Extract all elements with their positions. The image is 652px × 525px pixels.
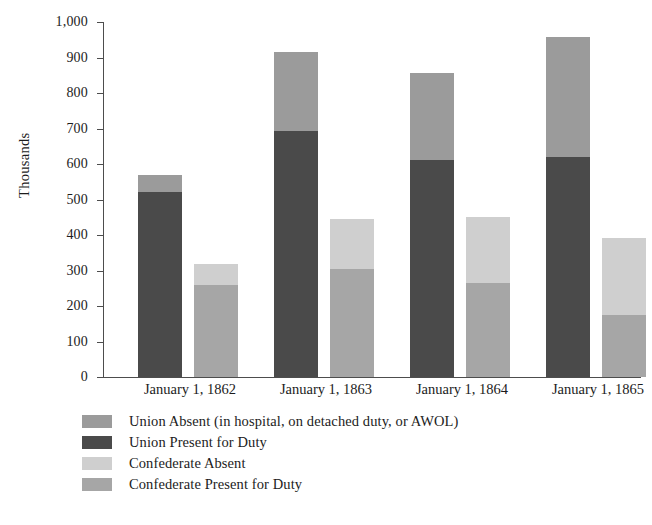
y-axis-tick-label: 1,000 bbox=[56, 14, 89, 30]
bar-segment-union_absent bbox=[546, 37, 590, 157]
bar-segment-confederate_present bbox=[194, 285, 238, 377]
chart-legend: Union Absent (in hospital, on detached d… bbox=[82, 411, 458, 495]
legend-label: Union Absent (in hospital, on detached d… bbox=[129, 413, 458, 430]
y-axis-tick-label: 500 bbox=[66, 192, 88, 208]
y-axis-tick-label: 200 bbox=[66, 298, 88, 314]
y-axis-tick-label: 900 bbox=[66, 50, 88, 66]
bar-segment-union_present bbox=[274, 131, 318, 377]
bar-segment-confederate_absent bbox=[602, 238, 646, 315]
bar-confederate bbox=[466, 217, 510, 377]
bar-segment-confederate_present bbox=[330, 269, 374, 377]
legend-swatch bbox=[82, 478, 112, 491]
bar-confederate bbox=[330, 219, 374, 377]
y-axis-tick: 400 bbox=[97, 235, 103, 236]
legend-item: Union Absent (in hospital, on detached d… bbox=[82, 411, 458, 431]
y-axis-tick: 100 bbox=[97, 342, 103, 343]
y-axis-tick-label: 100 bbox=[66, 334, 88, 350]
y-axis-title: Thousands bbox=[16, 132, 33, 198]
chart-figure: Thousands 1,0009008007006005004003002001… bbox=[0, 0, 652, 525]
y-axis-tick: 700 bbox=[97, 129, 103, 130]
legend-swatch bbox=[82, 457, 112, 470]
bar-segment-union_present bbox=[138, 192, 182, 377]
y-axis-tick-label: 400 bbox=[66, 227, 88, 243]
y-axis-tick-label: 0 bbox=[81, 369, 88, 385]
y-axis-tick-label: 300 bbox=[66, 263, 88, 279]
legend-label: Confederate Present for Duty bbox=[129, 476, 302, 493]
x-axis-line bbox=[103, 377, 641, 378]
bar-segment-confederate_absent bbox=[330, 219, 374, 269]
bar-segment-union_absent bbox=[138, 175, 182, 192]
bar-segment-union_absent bbox=[274, 52, 318, 131]
y-axis-tick-label: 600 bbox=[66, 156, 88, 172]
bar-union bbox=[546, 37, 590, 377]
legend-label: Confederate Absent bbox=[129, 455, 246, 472]
bar-segment-union_present bbox=[410, 160, 454, 377]
bar-segment-confederate_absent bbox=[466, 217, 510, 283]
legend-swatch bbox=[82, 436, 112, 449]
bar-union bbox=[274, 52, 318, 377]
bar-segment-confederate_present bbox=[602, 315, 646, 377]
legend-item: Confederate Absent bbox=[82, 453, 458, 473]
y-axis-tick: 600 bbox=[97, 164, 103, 165]
y-axis-tick: 800 bbox=[97, 93, 103, 94]
y-axis-tick: 1,000 bbox=[97, 22, 103, 23]
y-axis-tick: 200 bbox=[97, 306, 103, 307]
bar-segment-confederate_present bbox=[466, 283, 510, 377]
plot-area: 1,0009008007006005004003002001000 Januar… bbox=[103, 22, 641, 378]
y-axis-line bbox=[103, 22, 104, 378]
bar-confederate bbox=[602, 238, 646, 377]
bar-segment-union_absent bbox=[410, 73, 454, 160]
bar-confederate bbox=[194, 264, 238, 377]
legend-item: Union Present for Duty bbox=[82, 432, 458, 452]
x-axis-group-label: January 1, 1865 bbox=[518, 381, 652, 398]
y-axis-tick: 0 bbox=[97, 377, 103, 378]
legend-label: Union Present for Duty bbox=[129, 434, 267, 451]
legend-swatch bbox=[82, 415, 112, 428]
y-axis-tick: 900 bbox=[97, 58, 103, 59]
bar-segment-confederate_absent bbox=[194, 264, 238, 285]
bar-union bbox=[410, 73, 454, 377]
y-axis-tick-label: 700 bbox=[66, 121, 88, 137]
y-axis-tick: 500 bbox=[97, 200, 103, 201]
y-axis-tick: 300 bbox=[97, 271, 103, 272]
bar-union bbox=[138, 175, 182, 377]
legend-item: Confederate Present for Duty bbox=[82, 474, 458, 494]
y-axis-tick-label: 800 bbox=[66, 85, 88, 101]
bar-segment-union_present bbox=[546, 157, 590, 377]
